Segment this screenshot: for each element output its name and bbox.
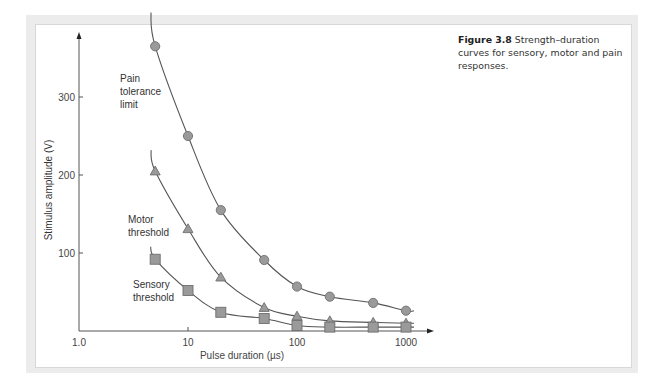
circle-marker-icon xyxy=(325,292,334,301)
square-marker-icon xyxy=(150,254,160,264)
square-marker-icon xyxy=(401,322,411,332)
series-label-line: threshold xyxy=(128,227,169,238)
curve-circle xyxy=(151,13,414,312)
triangle-marker-icon xyxy=(259,303,269,312)
square-marker-icon xyxy=(325,322,335,332)
series-label: Motorthreshold xyxy=(128,214,169,238)
circle-marker-icon xyxy=(260,255,269,264)
series-label: Sensorythreshold xyxy=(133,279,174,303)
series-label: Paintolerancelimit xyxy=(120,73,162,110)
square-marker-icon xyxy=(292,321,302,331)
series-label-line: limit xyxy=(120,99,138,110)
curve-triangle xyxy=(151,150,414,323)
y-tick-label: 100 xyxy=(58,248,75,259)
square-marker-icon xyxy=(216,307,226,317)
y-tick-label: 200 xyxy=(58,170,75,181)
figure-number: Figure 3.8 xyxy=(458,34,512,45)
y-axis-arrow-icon xyxy=(77,32,82,39)
circle-marker-icon xyxy=(369,298,378,307)
series-label-line: Pain xyxy=(120,73,140,84)
y-axis-label: Stimulus amplitude (V) xyxy=(43,140,54,241)
triangle-marker-icon xyxy=(150,166,160,175)
x-tick-label: 100 xyxy=(289,337,306,348)
markers xyxy=(150,42,411,332)
circle-marker-icon xyxy=(216,206,225,215)
circle-marker-icon xyxy=(183,131,192,140)
x-axis-arrow-icon xyxy=(427,329,434,334)
circle-marker-icon xyxy=(151,42,160,51)
figure-caption: Figure 3.8 Strength–duration curves for … xyxy=(458,33,630,72)
square-marker-icon xyxy=(183,285,193,295)
series-label-line: Motor xyxy=(128,214,154,225)
circle-marker-icon xyxy=(292,282,301,291)
x-tick-label: 1.0 xyxy=(72,337,86,348)
axes: 1002003001.0101001000Pulse duration (µs) xyxy=(58,32,434,361)
square-marker-icon xyxy=(259,314,269,324)
curves xyxy=(151,13,414,328)
x-axis-label: Pulse duration (µs) xyxy=(200,350,284,361)
series-label-line: Sensory xyxy=(133,279,170,290)
series-label-line: tolerance xyxy=(120,86,162,97)
x-tick-label: 1000 xyxy=(395,337,418,348)
x-tick-label: 10 xyxy=(182,337,194,348)
y-tick-label: 300 xyxy=(58,92,75,103)
square-marker-icon xyxy=(368,322,378,332)
labels: PaintolerancelimitMotorthresholdSensoryt… xyxy=(120,73,174,303)
triangle-marker-icon xyxy=(183,224,193,233)
circle-marker-icon xyxy=(401,306,410,315)
series-label-line: threshold xyxy=(133,292,174,303)
